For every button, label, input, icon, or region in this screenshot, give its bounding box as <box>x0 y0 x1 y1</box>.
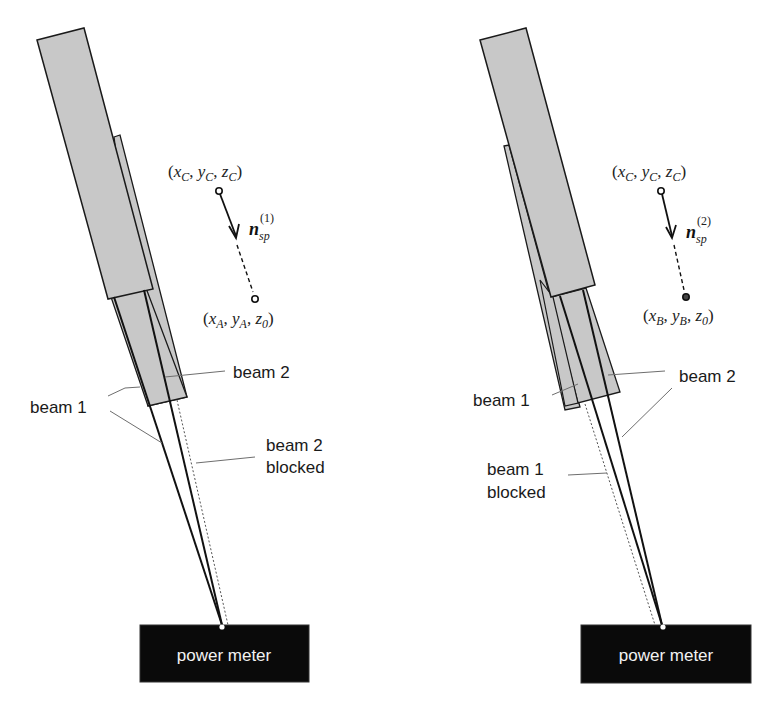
beam-1-label: beam 1 <box>30 398 87 417</box>
point-a <box>252 296 258 302</box>
beam-1-blocked-label-line1: beam 1 <box>487 460 544 479</box>
beam-2-blocked-label-line2: blocked <box>266 458 325 477</box>
point-b <box>683 294 689 300</box>
panel-left: (xC, yC, zC) nsp (1) (xA, yA, z0) beam 1… <box>30 28 325 682</box>
vector-superscript: (1) <box>260 211 274 225</box>
power-meter-label: power meter <box>619 646 714 665</box>
leader-beam-2-blocked <box>196 457 255 463</box>
beam-2-line <box>144 290 222 625</box>
beam-2-line <box>583 290 662 625</box>
focus-point <box>660 624 665 629</box>
figure-canvas: (xC, yC, zC) nsp (1) (xA, yA, z0) beam 1… <box>0 0 774 704</box>
leader-beam-2b <box>622 388 672 437</box>
point-c-label: (xC, yC, zC) <box>612 162 686 184</box>
beam-1-blocked-label-line2: blocked <box>487 483 546 502</box>
leader-beam-1 <box>108 387 140 396</box>
panel-right: (xC, yC, zC) nsp (2) (xB, yB, z0) beam 1… <box>473 28 751 683</box>
beam-1-line <box>560 296 662 625</box>
leader-beam-2 <box>608 371 665 375</box>
vector-arrow <box>220 194 236 236</box>
point-b-label: (xB, yB, z0) <box>643 306 714 328</box>
leader-beam-1b <box>110 411 162 443</box>
lower-tube <box>111 288 187 406</box>
beam-2-label: beam 2 <box>233 363 290 382</box>
vector-dashed-extension <box>237 245 253 292</box>
point-a-label: (xA, yA, z0) <box>203 309 274 331</box>
beam-2-blocked-label-line1: beam 2 <box>266 436 323 455</box>
point-c <box>216 188 222 194</box>
leader-beam-1-blocked <box>568 473 607 475</box>
beam-2-label: beam 2 <box>679 367 736 386</box>
housing <box>37 28 153 299</box>
beam-1-blocked-line <box>585 404 655 625</box>
vector-superscript: (2) <box>697 214 711 228</box>
point-c-label: (xC, yC, zC) <box>168 162 242 184</box>
power-meter-label: power meter <box>177 646 272 665</box>
focus-point <box>219 624 224 629</box>
point-c <box>658 188 664 194</box>
vector-dashed-extension <box>674 245 684 290</box>
beam-1-label: beam 1 <box>473 391 530 410</box>
